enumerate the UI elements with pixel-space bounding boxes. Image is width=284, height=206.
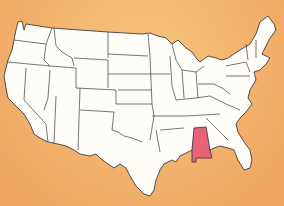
us-landmass (4, 16, 276, 196)
us-map-svg (0, 0, 284, 206)
us-map: United States map with Alabama highlight… (0, 0, 284, 206)
